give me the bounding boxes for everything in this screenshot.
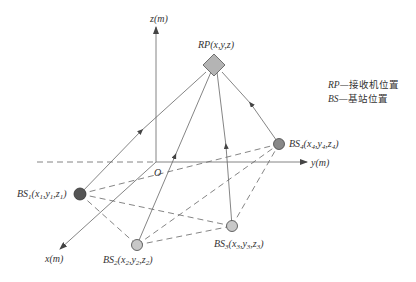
bs2-marker-icon — [132, 240, 143, 251]
signal-paths — [80, 72, 279, 245]
base-station-3: BS3(x3,y3,z3) — [214, 221, 264, 252]
base-station-links — [80, 144, 279, 245]
legend: RP—接收机位置 BS—基站位置 — [327, 79, 399, 104]
origin-label: O — [154, 167, 161, 178]
legend-item-rp: RP—接收机位置 — [327, 79, 399, 90]
bs1-label: BS1(x1,y1,z1) — [17, 188, 67, 201]
receiver-label: RP(x,y,z) — [197, 39, 235, 51]
base-station-2: BS2(x2,y2,z2) — [103, 240, 153, 268]
axes — [37, 27, 307, 249]
legend-item-bs: BS—基站位置 — [328, 93, 388, 104]
bs2-label: BS2(x2,y2,z2) — [103, 254, 153, 267]
bs4-marker-icon — [274, 139, 285, 150]
base-station-1: BS1(x1,y1,z1) — [17, 188, 86, 201]
x-axis — [60, 162, 156, 249]
receiver: RP(x,y,z) — [197, 39, 235, 76]
bs1-marker-icon — [74, 188, 86, 200]
positioning-diagram: RP(x,y,z) BS1(x1,y1,z1) BS2(x2,y2,z2) BS… — [0, 0, 416, 282]
bs3-label: BS3(x3,y3,z3) — [214, 238, 264, 251]
bs4-label: BS4(x4,y4,z4) — [289, 138, 339, 151]
z-axis-label: z(m) — [149, 13, 168, 25]
bs3-marker-icon — [227, 221, 238, 232]
x-axis-label: x(m) — [44, 253, 64, 265]
y-axis-label: y(m) — [310, 157, 330, 169]
base-station-4: BS4(x4,y4,z4) — [274, 138, 340, 151]
receiver-diamond-icon — [203, 54, 225, 76]
